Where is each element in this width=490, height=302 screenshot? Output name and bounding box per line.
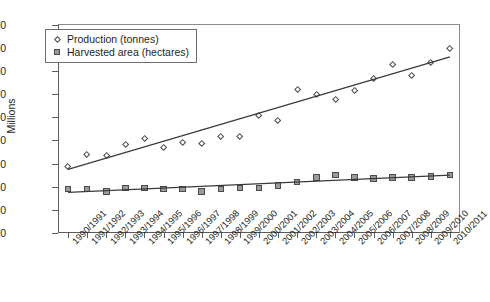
x-tick-mark (87, 233, 88, 238)
harvested-area-point (198, 188, 205, 195)
harvested-area-point (256, 185, 263, 192)
y-tick-label: 120 (0, 89, 6, 99)
harvested-area-point (408, 174, 415, 181)
harvested-area-point (84, 186, 91, 193)
harvested-area-point (447, 172, 454, 179)
x-tick-mark (374, 233, 375, 238)
harvested-area-point (332, 172, 339, 179)
x-tick-mark (221, 233, 222, 238)
x-tick-mark (144, 233, 145, 238)
harvested-area-point (103, 188, 110, 195)
harvested-area-point (428, 173, 435, 180)
x-tick-mark (431, 233, 432, 238)
x-tick-mark (240, 233, 241, 238)
x-tick-mark (412, 233, 413, 238)
harvested-area-point (218, 186, 225, 193)
x-tick-mark (164, 233, 165, 238)
x-tick-mark (393, 233, 394, 238)
x-tick-mark (278, 233, 279, 238)
y-tick-mark (52, 233, 58, 234)
y-tick-label: 60 (0, 159, 6, 169)
y-tick-label: 20 (0, 205, 6, 215)
x-tick-mark (183, 233, 184, 238)
harvested-area-point (160, 186, 167, 193)
harvested-area-point (65, 186, 72, 193)
y-tick-label: 0 (0, 228, 6, 238)
x-tick-mark (125, 233, 126, 238)
x-tick-mark (335, 233, 336, 238)
harvested-area-point (122, 185, 129, 192)
x-tick-mark (68, 233, 69, 238)
harvested-area-point (294, 179, 301, 186)
open-diamond-icon (51, 37, 63, 42)
legend-label-production: Production (tonnes) (67, 34, 159, 45)
x-tick-mark (106, 233, 107, 238)
harvested-area-point (351, 174, 358, 181)
filled-square-icon (51, 49, 63, 55)
harvested-area-point (370, 175, 377, 182)
y-tick-label: 160 (0, 43, 6, 53)
x-tick-mark (202, 233, 203, 238)
harvested-area-point (313, 174, 320, 181)
legend-item-production: Production (tonnes) (51, 33, 189, 45)
harvested-area-point (389, 174, 396, 181)
y-tick-label: 100 (0, 112, 6, 122)
y-tick-label: 80 (0, 135, 6, 145)
x-tick-mark (354, 233, 355, 238)
chart-legend: Production (tonnes) Harvested area (hect… (45, 29, 197, 63)
y-tick-label: 40 (0, 182, 6, 192)
harvested-area-point (179, 186, 186, 193)
y-axis-title: Millions (5, 86, 17, 146)
x-tick-mark (297, 233, 298, 238)
x-tick-mark (316, 233, 317, 238)
harvested-area-point (237, 185, 244, 192)
harvested-area-point (141, 185, 148, 192)
x-tick-mark (259, 233, 260, 238)
y-tick-label: 140 (0, 66, 6, 76)
harvested-area-point (275, 182, 282, 189)
y-tick-label: 180 (0, 20, 6, 30)
legend-label-harvested-area: Harvested area (hectares) (67, 47, 189, 58)
legend-item-harvested-area: Harvested area (hectares) (51, 46, 189, 58)
x-tick-mark (450, 233, 451, 238)
